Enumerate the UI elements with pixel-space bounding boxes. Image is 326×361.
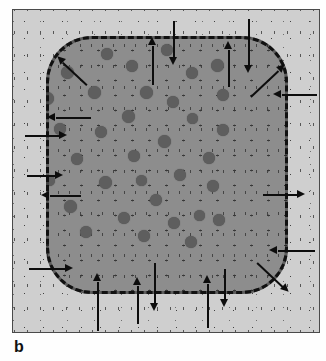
panel-label: b [14, 338, 24, 356]
arrow-head [280, 284, 291, 295]
arrow-diag-br-out [13, 10, 319, 332]
figure-root: b [0, 0, 326, 361]
figure-panel [12, 9, 320, 333]
arrow-shaft [256, 262, 283, 288]
